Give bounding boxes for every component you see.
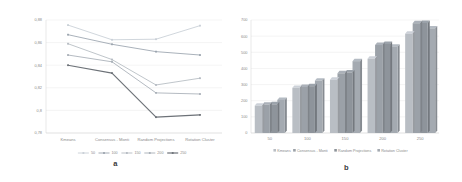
svg-text:0,88: 0,88 [34, 17, 42, 22]
svg-text:Consensus - Monti: Consensus - Monti [297, 149, 328, 153]
svg-text:Random Projections: Random Projections [138, 137, 175, 142]
svg-text:0: 0 [245, 130, 248, 135]
panel-a-line-chart: 0,780,80,820,840,860,88KmeansConsensus -… [0, 0, 231, 182]
line-chart-svg: 0,780,80,820,840,860,88KmeansConsensus -… [0, 0, 231, 182]
svg-text:0,84: 0,84 [34, 63, 42, 68]
bar-chart-svg: 010020030040050060070050100150200250Kmea… [231, 0, 462, 182]
svg-text:Rotation Cluster: Rotation Cluster [381, 149, 408, 153]
svg-text:100: 100 [304, 136, 312, 141]
svg-text:Rotation Cluster: Rotation Cluster [185, 137, 215, 142]
svg-text:100: 100 [241, 114, 248, 119]
svg-text:100: 100 [112, 151, 118, 155]
svg-text:400: 400 [241, 66, 248, 71]
svg-text:200: 200 [379, 136, 387, 141]
svg-text:500: 500 [241, 50, 248, 55]
svg-text:300: 300 [241, 82, 248, 87]
svg-text:200: 200 [241, 98, 248, 103]
svg-text:50: 50 [268, 136, 273, 141]
panel-b-caption: b [231, 163, 462, 172]
svg-text:Kmeans: Kmeans [277, 149, 291, 153]
svg-text:0,82: 0,82 [34, 85, 42, 90]
svg-text:Random Projections: Random Projections [338, 149, 371, 153]
svg-text:150: 150 [342, 136, 350, 141]
svg-text:200: 200 [157, 151, 163, 155]
svg-text:Kmeans: Kmeans [60, 137, 75, 142]
panel-a-caption: a [0, 159, 231, 168]
figure-container: 0,780,80,820,840,860,88KmeansConsensus -… [0, 0, 462, 182]
svg-text:600: 600 [241, 34, 248, 39]
panel-b-bar-chart: 010020030040050060070050100150200250Kmea… [231, 0, 462, 182]
svg-text:0,78: 0,78 [34, 130, 42, 135]
svg-text:700: 700 [241, 17, 248, 22]
svg-text:0,8: 0,8 [37, 108, 42, 113]
svg-text:50: 50 [91, 151, 95, 155]
svg-text:250: 250 [180, 151, 186, 155]
svg-text:150: 150 [134, 151, 140, 155]
svg-text:Consensus - Monti: Consensus - Monti [95, 137, 129, 142]
svg-text:0,86: 0,86 [34, 40, 42, 45]
svg-text:250: 250 [417, 136, 425, 141]
